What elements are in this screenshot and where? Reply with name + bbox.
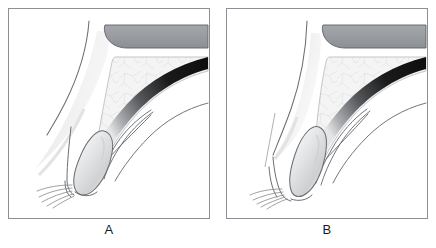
panel-a-frame <box>8 8 210 219</box>
panel-a <box>8 8 210 219</box>
panel-b <box>226 8 428 219</box>
panel-b-label: B <box>226 222 428 237</box>
panel-b-frame <box>226 8 428 219</box>
dark-gray-band <box>104 25 208 48</box>
panel-b-illustration <box>227 9 427 218</box>
panel-a-illustration <box>9 9 209 218</box>
anatomical-figure: A <box>0 0 436 248</box>
dark-gray-band <box>322 25 426 48</box>
panel-a-label: A <box>8 222 210 237</box>
